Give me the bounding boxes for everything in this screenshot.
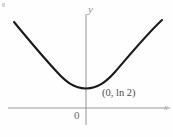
y-axis-label: y: [88, 4, 93, 15]
math-figure: y x 0 (0, ln 2): [0, 0, 173, 137]
vertex-point-label: (0, ln 2): [102, 88, 136, 99]
x-axis-label: x: [164, 103, 168, 112]
curve-path: [14, 20, 162, 89]
plot-canvas: [0, 0, 173, 137]
origin-label: 0: [74, 110, 80, 121]
